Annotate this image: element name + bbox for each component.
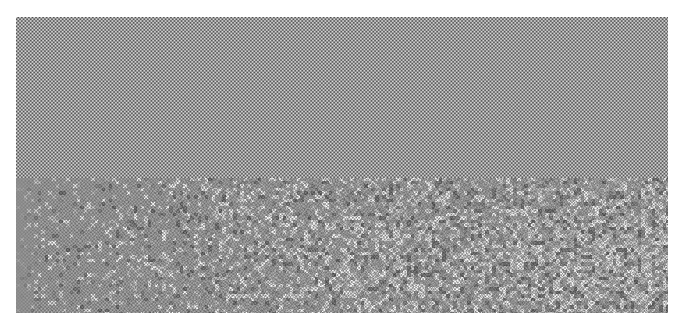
figure-root	[0, 0, 683, 330]
lattice-simulation-image	[16, 17, 668, 313]
